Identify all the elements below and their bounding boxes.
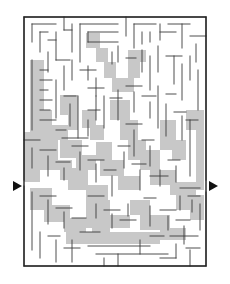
shaded-region [30,188,86,232]
shaded-region [60,95,78,130]
exit-arrow-icon [209,181,218,191]
maze-wall [48,52,96,96]
maze-canvas [0,0,230,284]
shaded-region [186,110,204,190]
shaded-region [82,110,104,140]
shaded-region [66,232,160,244]
maze-wall [32,24,56,60]
entrance-arrow-icon [13,181,22,191]
solution-shading [24,33,204,244]
